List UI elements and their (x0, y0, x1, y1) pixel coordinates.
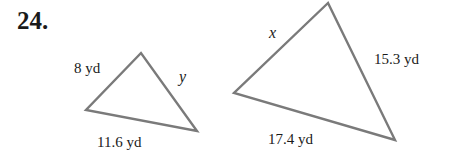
triangles-svg (0, 0, 452, 160)
similar-triangles-figure: 24. 8 yd y 11.6 yd x 15.3 yd 17.4 yd (0, 0, 452, 160)
large-triangle (234, 3, 395, 140)
small-right-side-label: y (179, 69, 186, 85)
large-left-side-label: x (269, 25, 276, 41)
large-bottom-side-label: 17.4 yd (268, 132, 313, 147)
small-bottom-side-label: 11.6 yd (97, 135, 141, 150)
small-triangle (86, 53, 197, 131)
small-left-side-label: 8 yd (74, 61, 100, 76)
large-right-side-label: 15.3 yd (374, 52, 419, 67)
